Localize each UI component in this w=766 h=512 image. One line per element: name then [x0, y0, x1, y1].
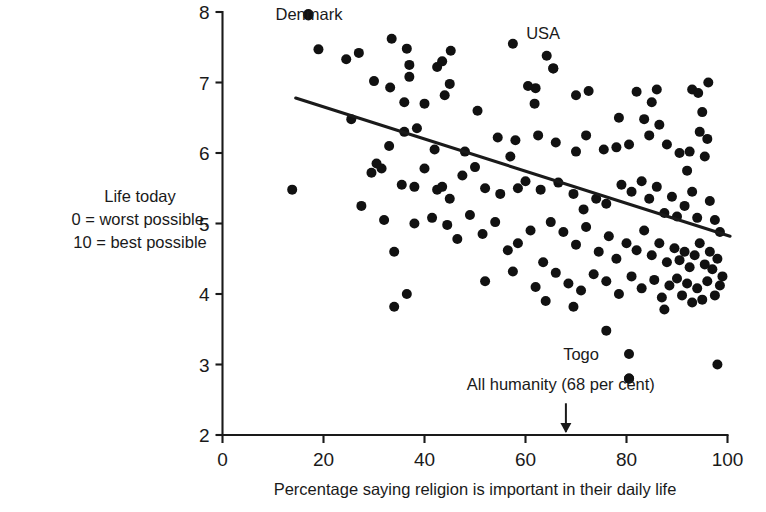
- data-point: [697, 107, 707, 117]
- annotated-data-point: [548, 63, 558, 73]
- data-point: [402, 44, 412, 54]
- data-point: [402, 289, 412, 299]
- data-point: [639, 114, 649, 124]
- data-point: [652, 182, 662, 192]
- data-point: [558, 227, 568, 237]
- data-point: [622, 238, 632, 248]
- data-point: [513, 238, 523, 248]
- data-point: [675, 255, 685, 265]
- data-point: [508, 39, 518, 49]
- data-point: [594, 247, 604, 257]
- data-point: [632, 245, 642, 255]
- data-point: [480, 183, 490, 193]
- data-point: [662, 257, 672, 267]
- annotation-label: Togo: [563, 345, 599, 363]
- data-point: [682, 278, 692, 288]
- data-point: [568, 189, 578, 199]
- y-axis-label-line: 0 = worst possible,: [71, 210, 208, 228]
- data-point: [412, 123, 422, 133]
- data-point: [397, 180, 407, 190]
- data-point: [690, 250, 700, 260]
- data-point: [430, 144, 440, 154]
- data-point: [644, 130, 654, 140]
- data-point: [470, 162, 480, 172]
- data-point: [654, 120, 664, 130]
- data-point: [409, 219, 419, 229]
- data-point: [440, 90, 450, 100]
- data-point: [680, 201, 690, 211]
- data-point: [493, 132, 503, 142]
- data-point: [601, 326, 611, 336]
- data-point: [366, 168, 376, 178]
- data-point: [707, 264, 717, 274]
- data-point: [389, 247, 399, 257]
- data-point: [369, 76, 379, 86]
- y-tick-label: 3: [199, 355, 210, 376]
- data-point: [693, 88, 703, 98]
- annotation-label: USA: [526, 24, 560, 42]
- data-point: [384, 141, 394, 151]
- data-point: [551, 268, 561, 278]
- annotation-label: Denmark: [276, 5, 344, 23]
- chart-figure: 2345678020406080100Percentage saying rel…: [0, 0, 766, 512]
- data-point: [546, 217, 556, 227]
- data-point: [664, 281, 674, 291]
- data-point: [446, 46, 456, 56]
- data-point: [614, 113, 624, 123]
- data-point: [712, 254, 722, 264]
- data-point: [313, 44, 323, 54]
- data-point: [667, 192, 677, 202]
- data-point: [387, 34, 397, 44]
- data-point: [675, 148, 685, 158]
- data-point: [427, 213, 437, 223]
- data-point: [576, 285, 586, 295]
- data-point: [508, 266, 518, 276]
- data-point: [717, 271, 727, 281]
- data-point: [563, 278, 573, 288]
- data-point: [712, 360, 722, 370]
- data-point: [287, 185, 297, 195]
- data-point: [652, 85, 662, 95]
- data-point: [538, 257, 548, 267]
- data-point: [657, 293, 667, 303]
- data-point: [495, 189, 505, 199]
- data-point: [680, 247, 690, 257]
- data-point: [473, 106, 483, 116]
- data-point: [341, 54, 351, 64]
- data-point: [697, 295, 707, 305]
- data-point: [533, 130, 543, 140]
- data-point: [437, 56, 447, 66]
- data-point: [611, 254, 621, 264]
- data-point: [568, 302, 578, 312]
- data-point: [457, 171, 467, 181]
- data-point: [531, 83, 541, 93]
- y-axis-label-line: 10 = best possible: [73, 233, 206, 251]
- data-point: [542, 51, 552, 61]
- data-point: [536, 185, 546, 195]
- data-point: [669, 243, 679, 253]
- data-point: [389, 302, 399, 312]
- data-point: [703, 78, 713, 88]
- data-point: [571, 147, 581, 157]
- y-tick-label: 8: [199, 2, 210, 23]
- data-point: [354, 48, 364, 58]
- data-point: [710, 215, 720, 225]
- data-point: [624, 349, 634, 359]
- x-tick-label: 100: [712, 449, 744, 470]
- data-point: [637, 283, 647, 293]
- data-point: [639, 226, 649, 236]
- x-tick-label: 60: [515, 449, 536, 470]
- data-point: [710, 290, 720, 300]
- data-point: [579, 204, 589, 214]
- data-point: [465, 210, 475, 220]
- data-point: [637, 176, 647, 186]
- annotation-arrow-head: [560, 423, 571, 433]
- data-point: [627, 187, 637, 197]
- y-tick-label: 2: [199, 425, 210, 446]
- data-point: [685, 262, 695, 272]
- data-point: [478, 229, 488, 239]
- y-tick-label: 7: [199, 73, 210, 94]
- x-tick-label: 0: [217, 449, 228, 470]
- data-point: [700, 152, 710, 162]
- data-point: [644, 194, 654, 204]
